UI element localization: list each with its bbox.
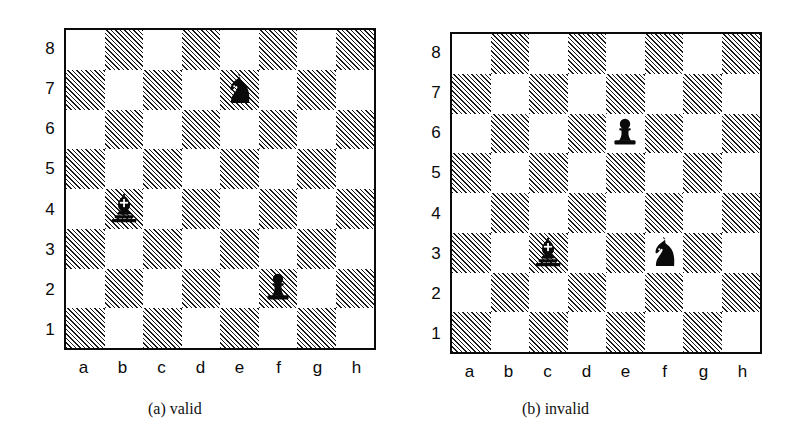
square-f8[interactable]	[645, 34, 684, 74]
square-f7[interactable]	[645, 74, 684, 114]
square-h6[interactable]	[336, 110, 375, 150]
square-f6[interactable]	[259, 110, 298, 150]
square-a3[interactable]	[452, 233, 491, 273]
square-e6[interactable]	[220, 110, 259, 150]
square-g2[interactable]	[683, 273, 722, 313]
square-b6[interactable]	[491, 114, 530, 154]
square-b4[interactable]	[491, 193, 530, 233]
square-c6[interactable]	[143, 110, 182, 150]
square-b6[interactable]	[105, 110, 144, 150]
black-knight-icon[interactable]	[222, 73, 256, 107]
square-f7[interactable]	[259, 70, 298, 110]
square-f3[interactable]	[259, 229, 298, 269]
square-a5[interactable]	[66, 149, 105, 189]
square-d6[interactable]	[568, 114, 607, 154]
square-g3[interactable]	[683, 233, 722, 273]
square-c1[interactable]	[143, 308, 182, 348]
square-a8[interactable]	[66, 30, 105, 70]
square-g7[interactable]	[683, 74, 722, 114]
square-b5[interactable]	[105, 149, 144, 189]
square-f8[interactable]	[259, 30, 298, 70]
square-f1[interactable]	[259, 308, 298, 348]
square-e8[interactable]	[220, 30, 259, 70]
square-c8[interactable]	[529, 34, 568, 74]
square-b3[interactable]	[105, 229, 144, 269]
square-a3[interactable]	[66, 229, 105, 269]
square-e5[interactable]	[220, 149, 259, 189]
square-d6[interactable]	[182, 110, 221, 150]
square-g6[interactable]	[297, 110, 336, 150]
square-h4[interactable]	[722, 193, 761, 233]
square-e1[interactable]	[606, 312, 645, 352]
square-d2[interactable]	[568, 273, 607, 313]
black-pawn-icon[interactable]	[261, 271, 295, 305]
square-g4[interactable]	[683, 193, 722, 233]
square-b5[interactable]	[491, 153, 530, 193]
square-b7[interactable]	[491, 74, 530, 114]
square-d5[interactable]	[182, 149, 221, 189]
square-g3[interactable]	[297, 229, 336, 269]
square-a4[interactable]	[452, 193, 491, 233]
square-f2[interactable]	[645, 273, 684, 313]
square-b4[interactable]	[105, 189, 144, 229]
square-d7[interactable]	[182, 70, 221, 110]
square-d1[interactable]	[568, 312, 607, 352]
square-b8[interactable]	[491, 34, 530, 74]
square-b2[interactable]	[105, 269, 144, 309]
square-e4[interactable]	[606, 193, 645, 233]
square-b7[interactable]	[105, 70, 144, 110]
chess-board-b[interactable]	[450, 32, 762, 354]
square-c4[interactable]	[529, 193, 568, 233]
square-a7[interactable]	[452, 74, 491, 114]
square-f5[interactable]	[259, 149, 298, 189]
black-bishop-icon[interactable]	[107, 192, 141, 226]
square-f4[interactable]	[259, 189, 298, 229]
square-a7[interactable]	[66, 70, 105, 110]
square-h2[interactable]	[336, 269, 375, 309]
square-g8[interactable]	[297, 30, 336, 70]
square-b1[interactable]	[105, 308, 144, 348]
square-c2[interactable]	[143, 269, 182, 309]
square-a8[interactable]	[452, 34, 491, 74]
square-h5[interactable]	[722, 153, 761, 193]
square-b8[interactable]	[105, 30, 144, 70]
square-c5[interactable]	[143, 149, 182, 189]
square-d1[interactable]	[182, 308, 221, 348]
black-pawn-icon[interactable]	[608, 116, 642, 150]
square-d2[interactable]	[182, 269, 221, 309]
square-g1[interactable]	[683, 312, 722, 352]
square-h8[interactable]	[722, 34, 761, 74]
square-d4[interactable]	[568, 193, 607, 233]
square-g5[interactable]	[297, 149, 336, 189]
square-d5[interactable]	[568, 153, 607, 193]
square-c5[interactable]	[529, 153, 568, 193]
square-c6[interactable]	[529, 114, 568, 154]
square-e1[interactable]	[220, 308, 259, 348]
square-b1[interactable]	[491, 312, 530, 352]
square-a2[interactable]	[452, 273, 491, 313]
square-e3[interactable]	[220, 229, 259, 269]
square-h3[interactable]	[722, 233, 761, 273]
square-d4[interactable]	[182, 189, 221, 229]
chess-board-a[interactable]	[64, 28, 376, 350]
square-b2[interactable]	[491, 273, 530, 313]
square-a1[interactable]	[66, 308, 105, 348]
square-c7[interactable]	[529, 74, 568, 114]
square-g1[interactable]	[297, 308, 336, 348]
square-d8[interactable]	[568, 34, 607, 74]
square-g4[interactable]	[297, 189, 336, 229]
square-h7[interactable]	[336, 70, 375, 110]
square-e7[interactable]	[220, 70, 259, 110]
square-g6[interactable]	[683, 114, 722, 154]
square-a5[interactable]	[452, 153, 491, 193]
square-g7[interactable]	[297, 70, 336, 110]
square-h1[interactable]	[722, 312, 761, 352]
square-f2[interactable]	[259, 269, 298, 309]
square-e7[interactable]	[606, 74, 645, 114]
square-e2[interactable]	[220, 269, 259, 309]
square-a6[interactable]	[452, 114, 491, 154]
square-h8[interactable]	[336, 30, 375, 70]
square-d8[interactable]	[182, 30, 221, 70]
square-d3[interactable]	[568, 233, 607, 273]
square-g8[interactable]	[683, 34, 722, 74]
